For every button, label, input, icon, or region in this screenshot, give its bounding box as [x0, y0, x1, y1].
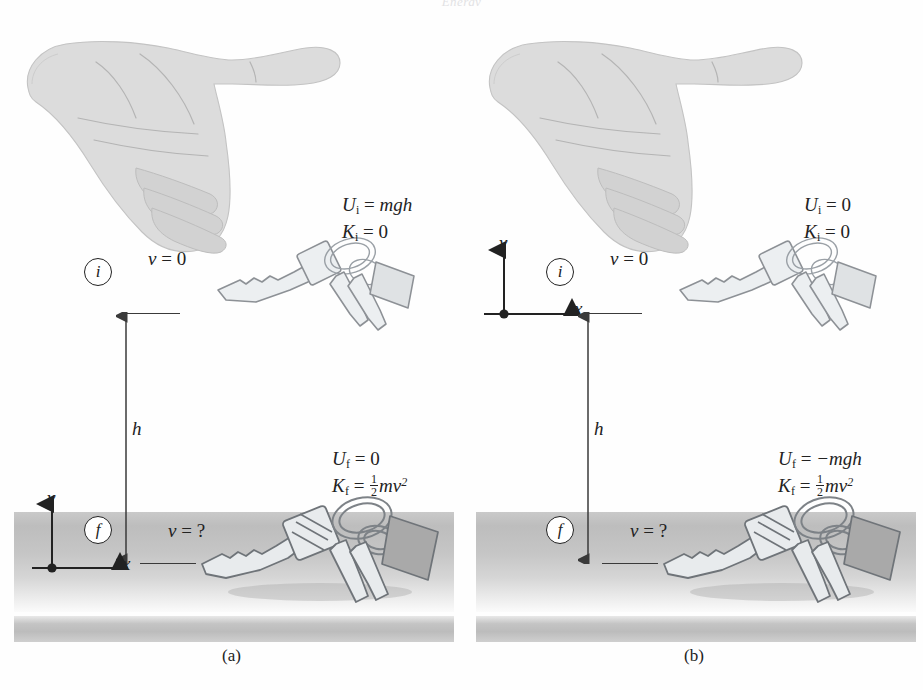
- velocity-value: 0: [177, 248, 187, 269]
- caption-b: (b): [684, 646, 704, 666]
- potential-energy-initial-b: Ui = 0: [804, 192, 851, 219]
- equals-sign: =: [355, 448, 366, 469]
- velocity-initial-label-a: v = 0: [148, 246, 186, 272]
- velocity-symbol: v: [610, 248, 618, 269]
- panel-b: y x i v = 0 Ui = 0 Ki = 0: [462, 0, 923, 690]
- energy-block-initial-b: Ui = 0 Ki = 0: [804, 192, 851, 245]
- velocity-symbol: v: [630, 520, 638, 541]
- final-level-tick-b: [602, 563, 658, 564]
- potential-energy-initial-a: Ui = mgh: [342, 192, 412, 219]
- equals-sign: =: [826, 194, 837, 215]
- U-subscript: f: [346, 457, 350, 471]
- U-subscript: i: [818, 203, 822, 217]
- U-value: 0: [841, 194, 851, 215]
- velocity-symbol: v: [148, 248, 156, 269]
- potential-energy-final-b: Uf = −mgh: [778, 446, 862, 473]
- U-value: 0: [370, 448, 380, 469]
- U-subscript: f: [792, 457, 796, 471]
- K-subscript: i: [817, 230, 821, 244]
- equals-sign: =: [363, 221, 374, 242]
- state-marker-initial-b: i: [546, 258, 574, 286]
- height-label-b: h: [594, 418, 604, 440]
- caption-a: (a): [222, 646, 241, 666]
- equals-sign: =: [643, 520, 654, 541]
- x-axis-label-a: x: [122, 553, 130, 575]
- equals-sign: =: [181, 520, 192, 541]
- U-symbol: U: [804, 194, 818, 215]
- physics-figure: Energy: [0, 0, 923, 690]
- K-symbol: K: [342, 221, 355, 242]
- equals-sign: =: [801, 448, 812, 469]
- keys-final-b: [662, 488, 902, 608]
- final-level-tick-a: [140, 563, 196, 564]
- y-axis-label-b: y: [499, 232, 507, 254]
- exponent: 2: [847, 475, 853, 489]
- U-symbol: U: [332, 448, 346, 469]
- U-value: mgh: [379, 194, 412, 215]
- U-symbol: U: [778, 448, 792, 469]
- keys-final-a: [200, 488, 440, 608]
- state-marker-final-b: f: [546, 516, 574, 544]
- state-marker-initial-a: i: [84, 258, 112, 286]
- ground-shadow-a: [14, 616, 454, 642]
- energy-block-initial-a: Ui = mgh Ki = 0: [342, 192, 412, 245]
- numerator: 1: [816, 473, 824, 485]
- numerator: 1: [370, 473, 378, 485]
- U-subscript: i: [356, 203, 360, 217]
- ground-shadow-b: [476, 616, 916, 642]
- state-marker-final-a: f: [84, 516, 112, 544]
- keys-initial-a: [216, 228, 416, 343]
- velocity-symbol: v: [168, 520, 176, 541]
- y-axis-label-a: y: [47, 487, 55, 509]
- velocity-value: 0: [639, 248, 649, 269]
- potential-energy-final-a: Uf = 0: [332, 446, 407, 473]
- K-value: 0: [840, 221, 850, 242]
- kinetic-energy-initial-b: Ki = 0: [804, 219, 851, 246]
- keys-initial-b: [678, 228, 878, 343]
- exponent: 2: [401, 475, 407, 489]
- U-value: −mgh: [816, 448, 862, 469]
- equals-sign: =: [623, 248, 634, 269]
- K-value: 0: [378, 221, 388, 242]
- K-subscript: i: [355, 230, 359, 244]
- kinetic-energy-initial-a: Ki = 0: [342, 219, 412, 246]
- K-symbol: K: [804, 221, 817, 242]
- equals-sign: =: [825, 221, 836, 242]
- equals-sign: =: [161, 248, 172, 269]
- panel-a: v = 0 i Ui = mgh Ki = 0: [0, 0, 461, 690]
- equals-sign: =: [364, 194, 375, 215]
- U-symbol: U: [342, 194, 356, 215]
- velocity-initial-label-b: v = 0: [610, 246, 648, 272]
- height-label-a: h: [132, 418, 142, 440]
